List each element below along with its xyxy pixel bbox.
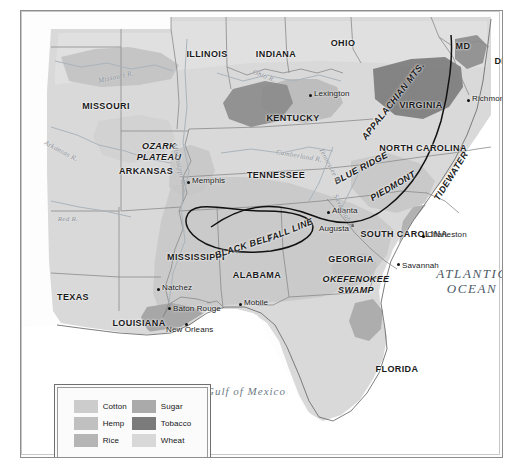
city-marker-atlanta: [327, 211, 330, 214]
state-label-alabama: ALABAMA: [233, 270, 281, 280]
region-label-swamp: SWAMP: [338, 285, 374, 295]
city-label-savannah: Savannah: [402, 261, 439, 270]
city-marker-charleston: [422, 235, 425, 238]
map-screenshot: ILLINOISINDIANAOHIOMDDELMISSOURIKENTUCKY…: [0, 0, 522, 472]
water-label-ocean: OCEAN: [447, 281, 498, 296]
city-marker-natchez: [157, 288, 160, 291]
legend-swatch-sugar: [132, 400, 156, 413]
city-label-memphis: Memphis: [192, 176, 225, 185]
water-label-gulf-of-mexico: Gulf of Mexico: [206, 385, 286, 397]
legend-swatch-hemp: [74, 417, 98, 430]
city-marker-savannah: [397, 263, 400, 266]
city-marker-memphis: [187, 181, 190, 184]
city-label-richmond: Richmond: [472, 94, 503, 103]
water-label-atlantic: ATLANTIC: [436, 266, 503, 281]
legend-swatch-cotton: [74, 400, 98, 413]
city-label-new-orleans: New Orleans: [166, 325, 213, 334]
state-label-arkansas: ARKANSAS: [119, 166, 173, 176]
state-label-texas: TEXAS: [57, 292, 89, 302]
city-marker-baton-rouge: [168, 307, 171, 310]
city-label-lexington: Lexington: [314, 89, 350, 98]
state-label-del: DEL: [494, 56, 503, 66]
city-label-baton-rouge: Baton Rouge: [173, 304, 221, 313]
legend-swatch-rice: [74, 434, 98, 447]
city-marker-mobile: [239, 303, 242, 306]
legend-label-cotton: Cotton: [103, 402, 127, 411]
map-legend: CottonSugarHempTobaccoRiceWheat: [54, 384, 211, 458]
region-label-okefenokee: OKEFENOKEE: [322, 274, 389, 284]
legend-swatch-tobacco: [132, 417, 156, 430]
state-label-indiana: INDIANA: [256, 49, 296, 59]
state-label-florida: FLORIDA: [376, 364, 419, 374]
state-label-md: MD: [456, 41, 471, 51]
city-marker-lexington: [309, 94, 312, 97]
state-label-illinois: ILLINOIS: [186, 49, 227, 59]
city-label-natchez: Natchez: [162, 283, 192, 292]
legend-label-wheat: Wheat: [161, 436, 192, 445]
state-label-missouri: MISSOURI: [82, 101, 130, 111]
city-label-mobile: Mobile: [244, 298, 268, 307]
legend-label-hemp: Hemp: [103, 419, 127, 428]
legend-swatch-wheat: [132, 434, 156, 447]
city-label-augusta: Augusta: [319, 224, 349, 233]
state-label-kentucky: KENTUCKY: [266, 113, 319, 123]
state-label-virginia: VIRGINIA: [399, 100, 442, 110]
state-label-tennessee: TENNESSEE: [247, 170, 305, 180]
city-label-charleston: Charleston: [427, 230, 467, 239]
legend-label-rice: Rice: [103, 436, 127, 445]
state-label-louisiana: LOUISIANA: [112, 318, 165, 328]
city-marker-richmond: [467, 99, 470, 102]
river-label-red-r-: Red R.: [58, 215, 78, 223]
state-label-north-carolina: NORTH CAROLINA: [379, 143, 467, 153]
state-label-georgia: GEORGIA: [328, 254, 373, 264]
map-frame: ILLINOISINDIANAOHIOMDDELMISSOURIKENTUCKY…: [20, 10, 503, 458]
state-label-ohio: OHIO: [331, 38, 356, 48]
legend-label-tobacco: Tobacco: [161, 419, 192, 428]
legend-label-sugar: Sugar: [161, 402, 192, 411]
legend-grid: CottonSugarHempTobaccoRiceWheat: [74, 400, 192, 447]
